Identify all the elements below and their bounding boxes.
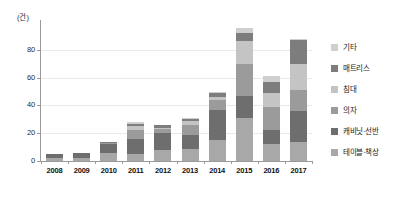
bar-group[interactable] — [209, 92, 226, 161]
bar-segment[interactable] — [263, 93, 280, 107]
y-axis-tick-label: 0 — [31, 157, 35, 165]
x-axis-tick-label: 2013 — [177, 166, 204, 176]
legend-item-label: 매트리스 — [343, 64, 370, 73]
chart-legend: 기타매트리스침대의자캐비닛·선반테이블·책상 — [331, 41, 411, 167]
bar-segment[interactable] — [236, 41, 253, 63]
bar-segment[interactable] — [290, 111, 307, 142]
y-axis-tick-label: 40 — [27, 101, 35, 109]
x-axis-tick-mark — [177, 161, 178, 164]
bar-group[interactable] — [154, 125, 171, 161]
legend-swatch-icon — [331, 86, 338, 93]
x-axis-labels: 2008200920102011201220132014201520162017 — [41, 166, 312, 180]
legend-item[interactable]: 매트리스 — [331, 62, 411, 75]
bar-segment[interactable] — [263, 144, 280, 161]
bar-segment[interactable] — [46, 158, 63, 161]
x-axis-tick-mark — [95, 161, 96, 164]
x-axis-tick-mark — [149, 161, 150, 164]
x-axis-tick-label: 2015 — [231, 166, 258, 176]
legend-swatch-icon — [331, 44, 338, 51]
y-axis-tick-label: 60 — [27, 74, 35, 82]
bar-group[interactable] — [236, 28, 253, 161]
bar-segment[interactable] — [290, 40, 307, 64]
bar-group[interactable] — [46, 154, 63, 161]
legend-item[interactable]: 침대 — [331, 83, 411, 96]
bar-segment[interactable] — [209, 100, 226, 110]
bar-segment[interactable] — [100, 144, 117, 152]
bar-segment[interactable] — [290, 64, 307, 90]
x-axis-tick-label: 2009 — [68, 166, 95, 176]
y-axis-tick-label: 80 — [27, 46, 35, 54]
y-axis-tick-mark — [37, 50, 40, 51]
bar-segment[interactable] — [209, 140, 226, 161]
bar-segment[interactable] — [154, 150, 171, 161]
legend-item-label: 테이블·책상 — [343, 148, 379, 157]
y-axis-tick-mark — [37, 161, 40, 162]
y-axis-unit-label: (건) — [17, 13, 29, 22]
x-axis-tick-mark — [312, 161, 313, 164]
legend-item[interactable]: 의자 — [331, 104, 411, 117]
legend-swatch-icon — [331, 149, 338, 156]
x-axis-tick-mark — [68, 161, 69, 164]
x-axis-tick-label: 2016 — [258, 166, 285, 176]
x-axis-tick-mark — [122, 161, 123, 164]
legend-item[interactable]: 기타 — [331, 41, 411, 54]
bar-segment[interactable] — [236, 64, 253, 96]
bar-segment[interactable] — [127, 154, 144, 161]
bar-group[interactable] — [100, 142, 117, 161]
bar-group[interactable] — [182, 118, 199, 161]
bar-group[interactable] — [73, 153, 90, 161]
x-axis-tick-label: 2017 — [285, 166, 312, 176]
x-axis-tick-mark — [231, 161, 232, 164]
legend-item-label: 기타 — [343, 43, 356, 52]
bar-segment[interactable] — [127, 130, 144, 138]
bar-segment[interactable] — [263, 130, 280, 144]
bar-group[interactable] — [290, 39, 307, 161]
bar-segment[interactable] — [263, 82, 280, 93]
x-axis-tick-label: 2011 — [122, 166, 149, 176]
bar-segment[interactable] — [127, 139, 144, 154]
bar-segment[interactable] — [290, 90, 307, 111]
x-axis-tick-mark — [204, 161, 205, 164]
bar-segment[interactable] — [154, 133, 171, 150]
legend-item-label: 캐비닛·선반 — [343, 127, 379, 136]
bar-segment[interactable] — [182, 135, 199, 149]
legend-item-label: 침대 — [343, 85, 356, 94]
y-axis-tick-mark — [37, 78, 40, 79]
bar-segment[interactable] — [182, 125, 199, 135]
bar-segment[interactable] — [236, 118, 253, 161]
bar-segment[interactable] — [209, 110, 226, 141]
bar-group[interactable] — [127, 122, 144, 161]
bar-group[interactable] — [263, 76, 280, 161]
legend-swatch-icon — [331, 65, 338, 72]
x-axis-tick-label: 2008 — [41, 166, 68, 176]
bar-segment[interactable] — [100, 153, 117, 161]
stacked-bar-chart: (건) 020406080 20082009201020112012201320… — [0, 0, 412, 199]
x-axis-tick-mark — [258, 161, 259, 164]
bar-segment[interactable] — [236, 33, 253, 41]
bar-segment[interactable] — [73, 158, 90, 161]
y-axis-tick-mark — [37, 133, 40, 134]
x-axis-tick-mark — [41, 161, 42, 164]
bar-segment[interactable] — [182, 149, 199, 162]
bar-segment[interactable] — [263, 107, 280, 131]
x-axis-tick-mark — [285, 161, 286, 164]
x-axis-tick-label: 2012 — [149, 166, 176, 176]
y-axis-tick-label: 20 — [27, 129, 35, 137]
legend-item[interactable]: 캐비닛·선반 — [331, 125, 411, 138]
legend-swatch-icon — [331, 128, 338, 135]
legend-swatch-icon — [331, 107, 338, 114]
y-axis-tick-mark — [37, 105, 40, 106]
bars-layer — [41, 22, 312, 161]
x-axis-tick-label: 2010 — [95, 166, 122, 176]
legend-item[interactable]: 테이블·책상 — [331, 146, 411, 159]
bar-segment[interactable] — [290, 142, 307, 161]
legend-item-label: 의자 — [343, 106, 356, 115]
bar-segment[interactable] — [236, 96, 253, 118]
x-axis-tick-label: 2014 — [204, 166, 231, 176]
